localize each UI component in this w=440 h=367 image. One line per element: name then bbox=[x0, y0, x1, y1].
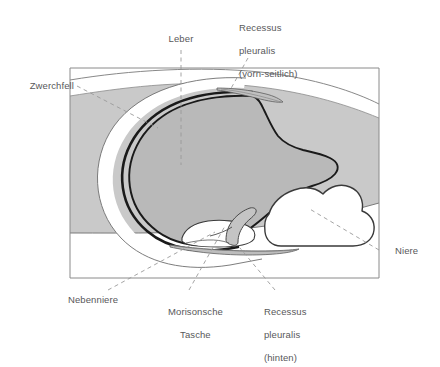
label-recessus-hinten-line-1: Recessus bbox=[264, 306, 307, 317]
label-niere: Niere bbox=[395, 245, 437, 257]
label-nebenniere: Nebenniere bbox=[68, 294, 140, 306]
label-morisonsche-tasche: Morisonsche Tasche bbox=[150, 294, 230, 352]
label-recessus-pleuralis-hinten: Recessus pleuralis (hinten) bbox=[253, 294, 327, 367]
label-recessus-vorn-line-1: Recessus bbox=[239, 22, 282, 33]
label-recessus-pleuralis-vorn-seitlich: Recessus pleuralis (vorn-seitlich) bbox=[228, 10, 322, 91]
label-morisonsche-tasche-line-1: Morisonsche bbox=[168, 306, 223, 317]
label-recessus-vorn-line-3: (vorn-seitlich) bbox=[239, 68, 298, 79]
label-zwerchfell: Zwerchfell bbox=[4, 80, 74, 92]
label-leber: Leber bbox=[151, 33, 211, 45]
label-morisonsche-tasche-line-2: Tasche bbox=[180, 329, 211, 340]
label-recessus-hinten-line-3: (hinten) bbox=[264, 352, 297, 363]
label-recessus-hinten-line-2: pleuralis bbox=[264, 329, 300, 340]
label-recessus-vorn-line-2: pleuralis bbox=[239, 45, 275, 56]
